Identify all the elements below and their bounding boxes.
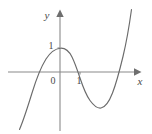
graph-figure: y x 1 0 1 <box>0 0 152 134</box>
y-axis-arrowhead <box>56 10 63 18</box>
function-curve <box>20 10 132 130</box>
x-axis-label: x <box>137 75 143 87</box>
y-tick-label-one: 1 <box>49 40 54 51</box>
y-axis-label: y <box>44 9 50 21</box>
coordinate-plot-svg: y x 1 0 1 <box>0 0 152 134</box>
x-tick-label-one: 1 <box>77 75 82 86</box>
origin-label: 0 <box>51 75 56 86</box>
